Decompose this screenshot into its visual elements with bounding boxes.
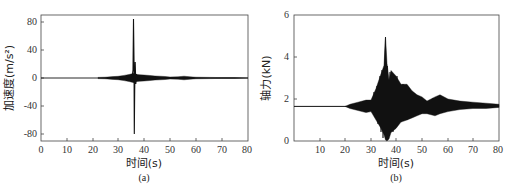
chart-panel-b: 6 4 2 0 10 20 30 40 50 60 70 80 — [255, 0, 509, 190]
y-tick-labels-b: 6 4 2 0 — [284, 9, 289, 146]
chart-panel-a: 80 40 0 -40 -80 0 10 20 30 40 50 60 70 8… — [0, 0, 255, 190]
x-tick-label: 80 — [493, 144, 503, 155]
x-tick-label: 70 — [217, 144, 227, 155]
x-tick-label: 30 — [113, 144, 123, 155]
y-tick-labels-a: 80 40 0 -40 -80 — [24, 16, 37, 139]
x-ticks-b — [320, 138, 473, 141]
x-tick-labels-b: 10 20 30 40 50 60 70 80 — [315, 144, 503, 155]
x-ticks-a — [67, 138, 222, 141]
x-axis-title-b: 时间(s) — [378, 157, 414, 170]
y-tick-label: 4 — [284, 51, 289, 62]
y-tick-label: 0 — [284, 135, 289, 146]
x-tick-label: 0 — [39, 144, 44, 155]
y-tick-label: -40 — [24, 100, 37, 111]
acceleration-trace — [98, 73, 248, 82]
x-axis-title-a: 时间(s) — [126, 157, 162, 170]
y-axis-title-b: 轴力(kN) — [259, 55, 273, 100]
x-tick-label: 20 — [88, 144, 98, 155]
axial-force-chart: 6 4 2 0 10 20 30 40 50 60 70 80 — [255, 0, 509, 190]
x-tick-label: 60 — [191, 144, 201, 155]
x-tick-label: 30 — [366, 144, 376, 155]
y-tick-label: 6 — [284, 9, 289, 20]
caption-a: (a) — [138, 172, 149, 184]
x-tick-label: 10 — [62, 144, 72, 155]
y-tick-label: 0 — [32, 72, 37, 83]
y-tick-label: 40 — [27, 44, 37, 55]
y-axis-title-a: 加速度(m/s²) — [2, 45, 16, 111]
x-tick-label: 80 — [242, 144, 252, 155]
caption-b: (b) — [390, 172, 402, 184]
x-tick-label: 10 — [315, 144, 325, 155]
y-tick-label: 80 — [27, 16, 37, 27]
x-tick-label: 40 — [139, 144, 149, 155]
x-tick-label: 70 — [468, 144, 478, 155]
x-tick-label: 40 — [391, 144, 401, 155]
y-tick-label: 2 — [284, 93, 289, 104]
axial-force-trace — [345, 37, 499, 141]
x-tick-label: 60 — [443, 144, 453, 155]
x-tick-label: 50 — [417, 144, 427, 155]
x-tick-labels-a: 0 10 20 30 40 50 60 70 80 — [39, 144, 253, 155]
x-tick-label: 50 — [165, 144, 175, 155]
y-tick-label: -80 — [24, 128, 37, 139]
acceleration-chart: 80 40 0 -40 -80 0 10 20 30 40 50 60 70 8… — [0, 0, 255, 190]
x-tick-label: 20 — [340, 144, 350, 155]
y-ticks-b — [294, 57, 297, 99]
